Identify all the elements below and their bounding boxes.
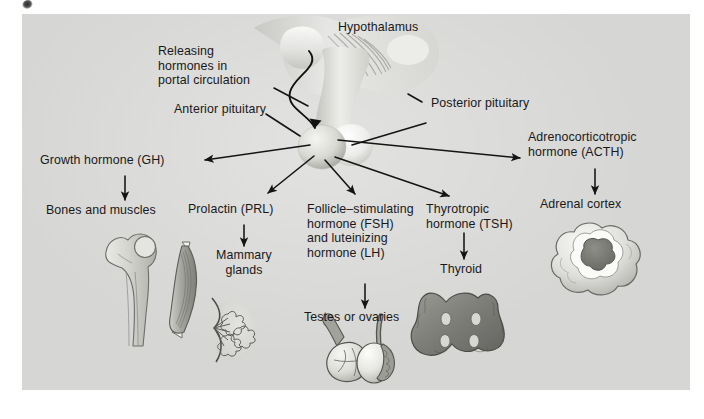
label-posterior-pituitary: Posterior pituitary bbox=[431, 96, 529, 111]
label-fsh-lh: Follicle–stimulating hormone (FSH) and l… bbox=[307, 202, 414, 260]
label-testes-or-ovaries: Testes or ovaries bbox=[304, 310, 399, 325]
label-acth: Adrenocorticotropic hormone (ACTH) bbox=[528, 130, 637, 159]
label-releasing-hormones: Releasing hormones in portal circulation bbox=[158, 44, 250, 88]
figure-root: Hypothalamus Releasing hormones in porta… bbox=[0, 0, 704, 419]
label-prolactin: Prolactin (PRL) bbox=[188, 202, 274, 217]
leader-posterior-pituitary bbox=[408, 94, 422, 102]
label-thyroid: Thyroid bbox=[440, 262, 482, 277]
label-bones-and-muscles: Bones and muscles bbox=[46, 203, 156, 218]
leader-anterior-pituitary bbox=[266, 114, 300, 136]
leader-posterior-pituitary-to-lobe bbox=[352, 123, 426, 145]
arrow-to-fsh-lh bbox=[325, 160, 355, 194]
label-tsh: Thyrotropic hormone (TSH) bbox=[426, 202, 513, 231]
label-hypothalamus: Hypothalamus bbox=[338, 20, 418, 35]
label-mammary-glands: Mammary glands bbox=[200, 248, 288, 277]
arrow-to-gh bbox=[205, 145, 310, 160]
arrow-to-prl bbox=[268, 156, 314, 193]
leader-releasing-hormones bbox=[274, 88, 308, 106]
scan-artifact-speck bbox=[21, 0, 34, 10]
diagram-panel: Hypothalamus Releasing hormones in porta… bbox=[22, 14, 690, 390]
label-anterior-pituitary: Anterior pituitary bbox=[174, 102, 266, 117]
label-adrenal-cortex: Adrenal cortex bbox=[540, 197, 621, 212]
label-growth-hormone: Growth hormone (GH) bbox=[40, 153, 164, 168]
arrow-to-acth bbox=[338, 140, 520, 158]
